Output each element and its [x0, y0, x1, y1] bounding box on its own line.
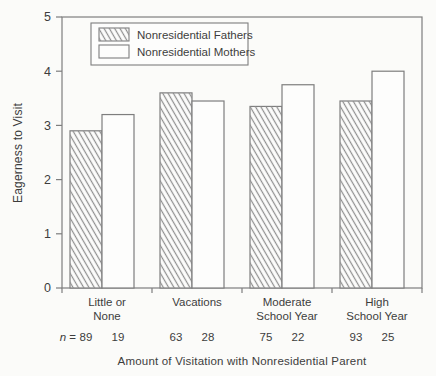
y-tick-label-5: 5 [44, 10, 51, 24]
category-label-group2-line1: Vacations [172, 296, 222, 308]
category-label-group4-line1: High [365, 296, 389, 308]
bar-fathers-group2-hatch [160, 93, 192, 288]
bar-chart-figure: 012345Nonresidential FathersNonresidenti… [0, 0, 436, 376]
bar-mothers-group1 [102, 115, 134, 288]
bar-chart-canvas: 012345Nonresidential FathersNonresidenti… [0, 0, 436, 376]
n-value-fathers-group2: 63 [170, 331, 183, 343]
category-label-group3-line2: School Year [256, 310, 318, 322]
y-tick-label-1: 1 [44, 227, 51, 241]
y-axis: 012345 [44, 10, 62, 295]
y-tick-label-0: 0 [44, 281, 51, 295]
bars [70, 71, 404, 288]
bar-fathers-group3-hatch [250, 106, 282, 288]
n-value-mothers-group2: 28 [202, 331, 215, 343]
y-tick-label-4: 4 [44, 65, 51, 79]
y-axis-title: Eagerness to Visit [11, 83, 25, 223]
legend-label-fathers: Nonresidential Fathers [137, 29, 253, 41]
y-tick-label-2: 2 [44, 173, 51, 187]
n-prefix-label: n = [60, 331, 77, 343]
n-value-mothers-group1: 19 [112, 331, 125, 343]
bar-mothers-group2 [192, 101, 224, 288]
n-value-fathers-group3: 75 [260, 331, 273, 343]
bar-fathers-group4-hatch [340, 101, 372, 288]
bar-mothers-group4 [372, 71, 404, 288]
legend-swatch-fathers-hatch [99, 28, 129, 41]
n-value-fathers-group1: 89 [80, 331, 93, 343]
bar-fathers-group1-hatch [70, 131, 102, 288]
n-value-fathers-group4: 93 [350, 331, 363, 343]
legend-label-mothers: Nonresidential Mothers [137, 46, 256, 58]
x-axis-title: Amount of Visitation with Nonresidential… [62, 355, 422, 367]
category-label-group1-line2: None [93, 310, 121, 322]
legend: Nonresidential FathersNonresidential Mot… [91, 23, 256, 65]
n-row: n =8963759319282225 [60, 331, 395, 343]
category-labels: Little orNoneVacationsModerateSchool Yea… [88, 296, 408, 322]
x-axis [62, 288, 422, 293]
legend-swatch-mothers [99, 45, 129, 58]
y-tick-label-3: 3 [44, 119, 51, 133]
category-label-group1-line1: Little or [88, 296, 126, 308]
n-value-mothers-group3: 22 [292, 331, 305, 343]
category-label-group3-line1: Moderate [263, 296, 312, 308]
category-label-group4-line2: School Year [346, 310, 408, 322]
bar-mothers-group3 [282, 85, 314, 288]
n-value-mothers-group4: 25 [382, 331, 395, 343]
